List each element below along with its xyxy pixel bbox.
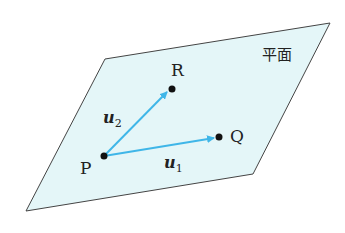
point-R — [169, 86, 176, 93]
point-P — [101, 153, 108, 160]
label-Q: Q — [230, 126, 244, 146]
point-Q — [216, 134, 223, 141]
label-R: R — [171, 60, 185, 80]
plane-label: 平面 — [262, 46, 292, 64]
label-P: P — [80, 158, 91, 178]
plane-diagram: 平面 P R Q u2 u1 — [0, 0, 345, 233]
